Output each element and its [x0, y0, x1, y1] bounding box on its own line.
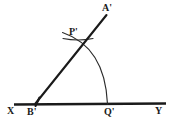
label-point-a-prime: A': [102, 3, 112, 13]
label-point-p-prime: P': [69, 27, 78, 37]
label-point-y: Y: [155, 106, 162, 116]
label-point-b-prime: B': [27, 107, 36, 117]
angle-construction-figure: X B' Q' Y P' A': [0, 0, 172, 127]
label-point-q-prime: Q': [104, 107, 115, 117]
label-point-x: X: [7, 106, 14, 116]
figure-canvas: [0, 0, 172, 127]
